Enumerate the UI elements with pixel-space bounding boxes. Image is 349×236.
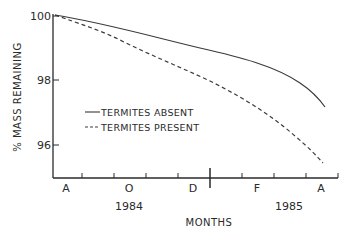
y-tick-label-98: 98 xyxy=(37,74,51,87)
legend-label-absent: TERMITES ABSENT xyxy=(100,107,194,118)
x-axis-title: MONTHS xyxy=(186,217,233,228)
year-label-1985: 1985 xyxy=(275,200,303,213)
x-tick-label-apr: A xyxy=(317,182,325,195)
series-termites-present-line xyxy=(55,15,323,163)
x-tick-label-feb: F xyxy=(254,182,260,195)
x-tick-label-aug: A xyxy=(62,182,70,195)
x-tick-label-oct: O xyxy=(125,182,134,195)
y-tick-label-100: 100 xyxy=(30,10,51,23)
chart: 100 98 96 A O D F A 1984 1985 MONTHS % M… xyxy=(0,0,349,236)
year-label-1984: 1984 xyxy=(115,200,143,213)
legend: TERMITES ABSENT TERMITES PRESENT xyxy=(85,107,199,133)
legend-label-present: TERMITES PRESENT xyxy=(100,122,199,133)
x-tick-label-dec: D xyxy=(189,182,197,195)
y-tick-label-96: 96 xyxy=(37,139,51,152)
y-axis-title: % MASS REMAINING xyxy=(12,42,23,151)
